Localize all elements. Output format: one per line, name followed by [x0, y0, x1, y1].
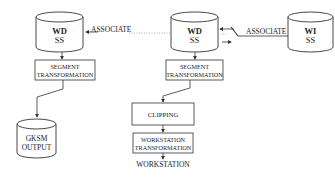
workstation-transformation-box: WORKSTATION TRANSFORMATION: [133, 133, 193, 153]
wiss-cylinder: WI SS: [288, 12, 333, 52]
gksm-line1: GKSM: [26, 134, 48, 143]
wdss-center-cylinder: WD SS: [171, 12, 218, 52]
segment-transformation-left-box: SEGMENT TRANSFORMATION: [35, 60, 95, 80]
ws-transform-line2: TRANSFORMATION: [135, 144, 192, 151]
clipping-box: CLIPPING: [132, 103, 194, 125]
clipping-label: CLIPPING: [148, 111, 179, 118]
arrow-seg-center-to-clipping: [163, 80, 190, 102]
seg-center-line2: TRANSFORMATION: [166, 71, 223, 78]
seg-center-line1: SEGMENT: [180, 63, 209, 70]
associate-left-label: ASSOCIATE: [91, 25, 132, 34]
wdss-left-cylinder: WD SS: [36, 12, 83, 52]
gksm-line2: OUTPUT: [22, 143, 52, 152]
ws-transform-line1: WORKSTATION: [141, 136, 186, 143]
wdss-center-line2: SS: [190, 35, 200, 45]
arrow-seg-left-to-gksm: [37, 80, 63, 117]
seg-left-line2: TRANSFORMATION: [37, 71, 94, 78]
segment-transformation-center-box: SEGMENT TRANSFORMATION: [166, 60, 223, 80]
workstation-output-label: WORKSTATION: [136, 160, 190, 169]
gks-segment-diagram: WD SS ASSOCIATE WD SS ASSOCIATE WI SS SE…: [0, 0, 335, 177]
seg-left-line1: SEGMENT: [50, 63, 79, 70]
wiss-line2: SS: [306, 35, 316, 45]
wdss-left-line2: SS: [55, 35, 65, 45]
gksm-output-cylinder: GKSM OUTPUT: [17, 119, 56, 158]
associate-right-label: ASSOCIATE: [246, 27, 287, 36]
